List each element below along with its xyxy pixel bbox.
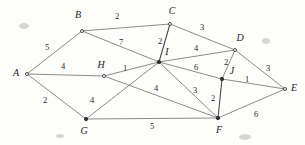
edge-weight-d-j: 2 bbox=[224, 57, 228, 67]
edge-weight-h-i: 1 bbox=[123, 63, 127, 73]
edge-weight-i-f: 3 bbox=[193, 85, 197, 95]
edge-weight-j-e: 1 bbox=[245, 74, 249, 84]
node-marker-a[interactable] bbox=[26, 73, 29, 76]
node-label-h: H bbox=[96, 59, 105, 70]
edge-weight-a-b: 5 bbox=[45, 42, 49, 52]
node-label-d: D bbox=[235, 32, 244, 43]
paper-speck bbox=[262, 38, 270, 44]
edge-weight-c-i: 2 bbox=[158, 36, 162, 46]
node-marker-h[interactable] bbox=[103, 75, 106, 78]
node-marker-i[interactable] bbox=[157, 60, 160, 63]
graph-canvas: 5422723463414231256 ABCDEFGHIJ bbox=[0, 0, 305, 145]
edge-weight-a-g: 2 bbox=[43, 95, 47, 105]
paper-speck bbox=[239, 134, 251, 140]
edge-weight-b-c: 2 bbox=[115, 11, 119, 21]
edge-weight-b-i: 7 bbox=[119, 37, 123, 47]
paper-speck bbox=[56, 134, 64, 138]
edge-weight-i-j: 6 bbox=[194, 62, 198, 72]
node-marker-j[interactable] bbox=[220, 77, 223, 80]
node-marker-d[interactable] bbox=[234, 49, 237, 52]
node-marker-f[interactable] bbox=[216, 116, 219, 119]
node-label-j: J bbox=[230, 65, 235, 76]
node-marker-c[interactable] bbox=[169, 23, 172, 26]
node-label-c: C bbox=[169, 5, 176, 16]
edge-weight-c-d: 3 bbox=[200, 22, 204, 32]
node-marker-e[interactable] bbox=[284, 88, 287, 91]
node-marker-b[interactable] bbox=[81, 30, 84, 33]
edge-weight-g-f: 5 bbox=[150, 121, 154, 131]
node-label-e: E bbox=[290, 82, 297, 93]
node-label-i: I bbox=[164, 46, 169, 57]
node-marker-g[interactable] bbox=[84, 117, 87, 120]
edge-weight-f-e: 6 bbox=[254, 109, 258, 119]
node-label-f: F bbox=[215, 124, 223, 135]
paper-speck bbox=[19, 23, 29, 29]
graph-figure: 5422723463414231256 ABCDEFGHIJ bbox=[0, 0, 305, 145]
node-label-g: G bbox=[80, 125, 87, 136]
node-label-a: A bbox=[12, 67, 20, 78]
node-label-b: B bbox=[75, 9, 81, 20]
edge-weight-d-e: 3 bbox=[266, 63, 270, 73]
edge-weight-j-f: 2 bbox=[211, 93, 215, 103]
